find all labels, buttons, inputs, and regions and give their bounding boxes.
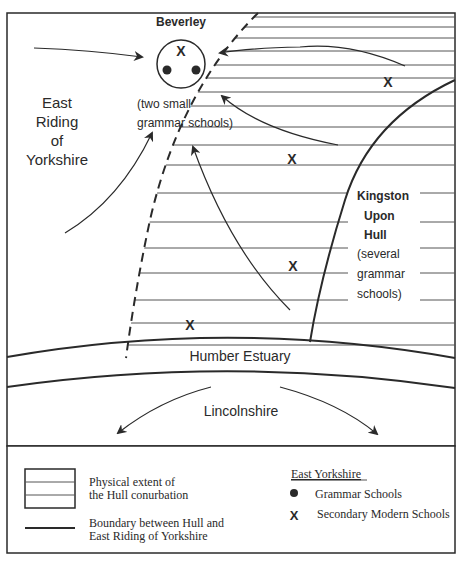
- hull-note: schools): [357, 287, 402, 301]
- legend-hatch-label: Physical extent of: [89, 475, 175, 489]
- humber-estuary-label: Humber Estuary: [189, 348, 290, 364]
- hull-note: grammar: [357, 267, 405, 281]
- arrow-southwest-to-beverley: [65, 133, 152, 233]
- arrow-south-to-beverley: [193, 147, 290, 310]
- legend-boundary-label: East Riding of Yorkshire: [89, 529, 208, 543]
- beverley-label: Beverley: [156, 15, 206, 29]
- secondary-modern-marker: X: [185, 317, 195, 333]
- legend-key-title: East Yorkshire: [291, 467, 361, 481]
- legend-grammar-dot: [290, 489, 298, 497]
- arrow-to-lincolnshire-west: [118, 387, 211, 433]
- map-figure: X X X X X Beverley (two small grammar sc…: [0, 0, 463, 561]
- east-riding-label: Riding: [36, 113, 79, 130]
- legend-grammar-label: Grammar Schools: [315, 487, 402, 501]
- arrow-to-lincolnshire-east: [280, 387, 377, 434]
- secondary-modern-marker-beverley: X: [176, 43, 186, 59]
- hull-label: Kingston: [357, 189, 409, 203]
- hull-label: Upon: [364, 209, 395, 223]
- arrow-east-to-beverley: [220, 46, 405, 66]
- secondary-modern-marker: X: [287, 151, 297, 167]
- grammar-school-dot: [163, 66, 172, 75]
- arrow-hull-to-beverley: [222, 96, 338, 145]
- secondary-modern-marker: X: [288, 258, 298, 274]
- legend-secondary-label: Secondary Modern Schools: [317, 507, 450, 521]
- arrow-west-to-beverley: [34, 48, 142, 57]
- legend-secondary-symbol: X: [290, 508, 299, 523]
- hull-note: (several: [357, 247, 400, 261]
- legend-hatch-label: the Hull conurbation: [89, 488, 188, 502]
- east-riding-label: of: [51, 132, 64, 149]
- legend-hatch-swatch: [25, 469, 75, 508]
- grammar-school-dot: [192, 66, 201, 75]
- lincolnshire-label: Lincolnshire: [204, 403, 279, 419]
- east-riding-label: Yorkshire: [26, 151, 88, 168]
- estuary-south-bank: [7, 371, 455, 388]
- hull-label: Hull: [364, 228, 387, 242]
- beverley-note: grammar schools): [137, 116, 233, 130]
- secondary-modern-marker: X: [383, 74, 393, 90]
- legend-boundary-label: Boundary between Hull and: [89, 516, 224, 530]
- beverley-note: (two small: [137, 97, 191, 111]
- east-riding-label: East: [42, 94, 73, 111]
